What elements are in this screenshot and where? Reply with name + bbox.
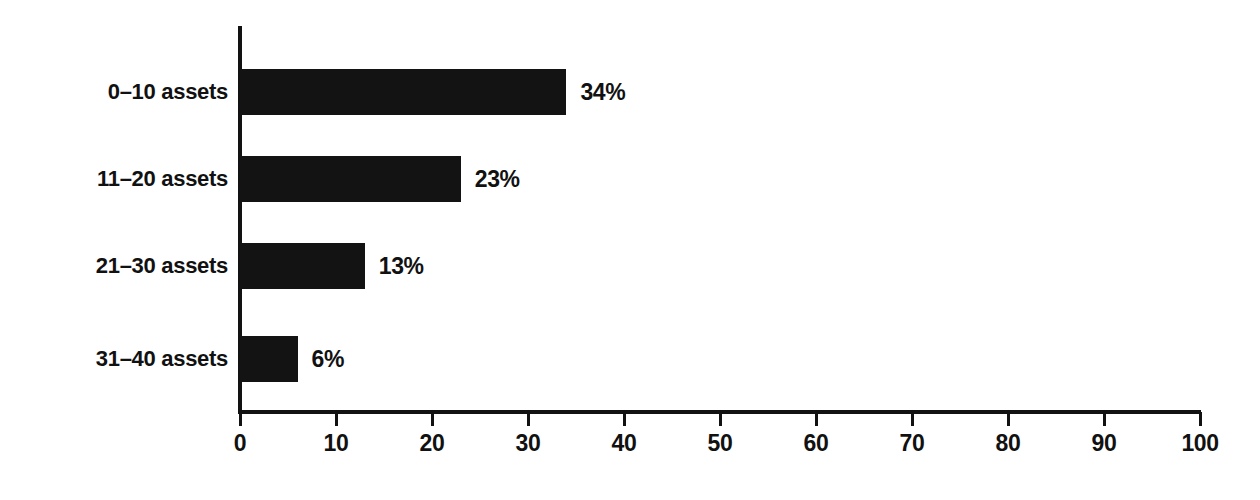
bar — [240, 336, 298, 382]
x-axis-tick — [1199, 412, 1202, 426]
x-axis-tick — [239, 412, 242, 426]
category-label: 11–20 assets — [0, 168, 228, 190]
x-axis-tick — [911, 412, 914, 426]
x-axis-tick-label: 60 — [781, 432, 851, 455]
x-axis-tick-label: 40 — [589, 432, 659, 455]
bar — [240, 69, 566, 115]
x-axis-tick-label: 90 — [1069, 432, 1139, 455]
x-axis-tick-label: 100 — [1165, 432, 1235, 455]
x-axis-tick — [1007, 412, 1010, 426]
x-axis-tick — [527, 412, 530, 426]
bar — [240, 156, 461, 202]
x-axis-tick — [1103, 412, 1106, 426]
x-axis-tick-label: 0 — [205, 432, 275, 455]
x-axis-tick — [431, 412, 434, 426]
bar-value-label: 34% — [580, 81, 625, 104]
bar — [240, 243, 365, 289]
x-axis-tick — [335, 412, 338, 426]
bar-value-label: 23% — [475, 168, 520, 191]
x-axis-tick — [623, 412, 626, 426]
bar-value-label: 6% — [312, 348, 344, 371]
category-label: 21–30 assets — [0, 255, 228, 277]
x-axis-tick — [719, 412, 722, 426]
category-label: 0–10 assets — [0, 81, 228, 103]
bar-chart: 0102030405060708090100 34%23%13%6% 0–10 … — [0, 0, 1260, 500]
x-axis-tick-label: 10 — [301, 432, 371, 455]
x-axis-tick-label: 20 — [397, 432, 467, 455]
x-axis-tick-label: 80 — [973, 432, 1043, 455]
x-axis-tick — [815, 412, 818, 426]
x-axis-tick-label: 50 — [685, 432, 755, 455]
bar-value-label: 13% — [379, 255, 424, 278]
x-axis-tick-label: 70 — [877, 432, 947, 455]
category-label: 31–40 assets — [0, 348, 228, 370]
x-axis-tick-label: 30 — [493, 432, 563, 455]
